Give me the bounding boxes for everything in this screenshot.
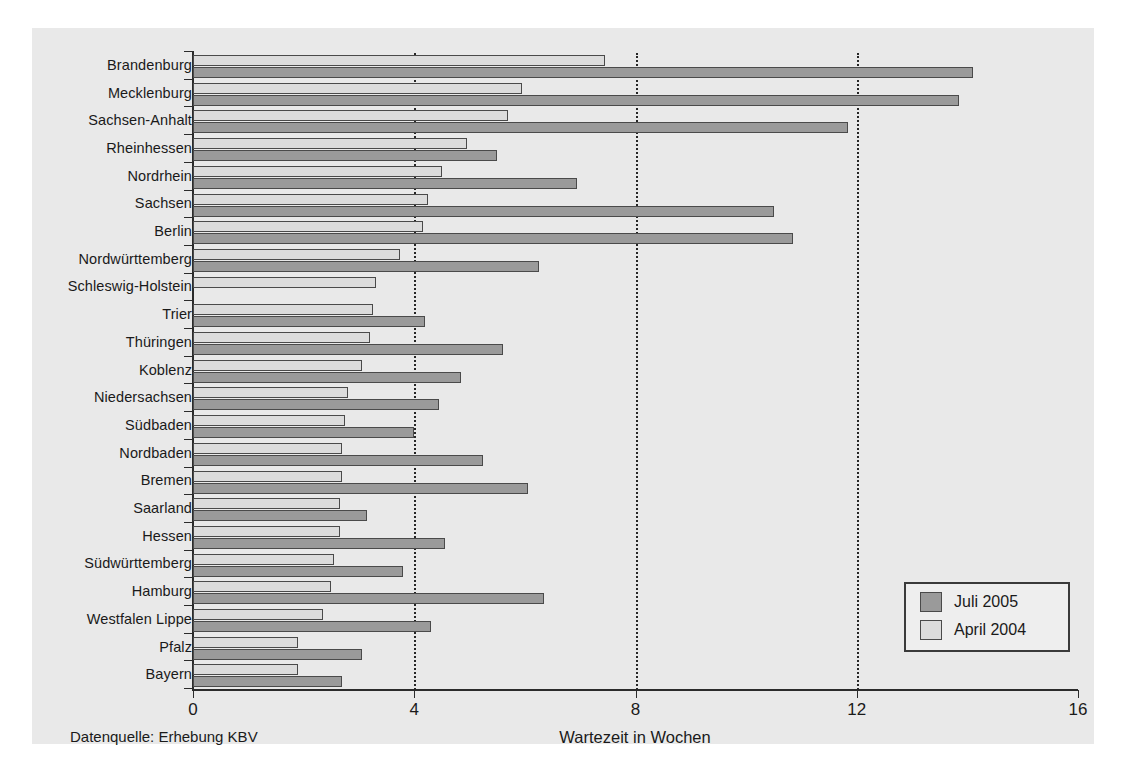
chart-legend: Juli 2005 April 2004 xyxy=(904,582,1070,652)
bar-juli-2005-nordrhein xyxy=(193,178,577,189)
y-tick-0 xyxy=(184,51,193,52)
bar-juli-2005-hessen xyxy=(193,538,445,549)
chart-page: 0481216 BrandenburgMecklenburgSachsen-An… xyxy=(0,0,1126,779)
bar-april-2004-saarland xyxy=(193,498,340,509)
bar-juli-2005-nordw-rttemberg xyxy=(193,261,539,272)
y-tick-6 xyxy=(184,217,193,218)
y-axis-label-bremen: Bremen xyxy=(141,472,192,488)
y-axis-label-nordrhein: Nordrhein xyxy=(127,168,192,184)
bar-april-2004-westfalen-lippe xyxy=(193,609,323,620)
y-axis-label-s-dbaden: Südbaden xyxy=(125,417,192,433)
gridline-8 xyxy=(636,53,638,690)
x-tick-12 xyxy=(857,690,858,698)
bar-april-2004-nordw-rttemberg xyxy=(193,249,400,260)
bar-april-2004-hamburg xyxy=(193,581,331,592)
bar-april-2004-koblenz xyxy=(193,360,362,371)
legend-swatch-april-2004 xyxy=(920,620,942,640)
x-tick-8 xyxy=(636,690,637,698)
bar-april-2004-schleswig-holstein xyxy=(193,277,376,288)
y-tick-4 xyxy=(184,162,193,163)
bar-april-2004-mecklenburg xyxy=(193,83,522,94)
bar-juli-2005-niedersachsen xyxy=(193,399,439,410)
legend-item-april-2004: April 2004 xyxy=(920,620,1026,640)
y-axis-label-westfalen-lippe: Westfalen Lippe xyxy=(87,611,192,627)
bar-juli-2005-s-dbaden xyxy=(193,427,414,438)
y-tick-16 xyxy=(184,494,193,495)
y-tick-22 xyxy=(184,660,193,661)
chart-panel: 0481216 BrandenburgMecklenburgSachsen-An… xyxy=(32,28,1094,744)
x-tick-label-12: 12 xyxy=(847,700,866,720)
y-tick-13 xyxy=(184,411,193,412)
y-tick-10 xyxy=(184,328,193,329)
x-tick-4 xyxy=(414,690,415,698)
y-tick-18 xyxy=(184,550,193,551)
bar-juli-2005-westfalen-lippe xyxy=(193,621,431,632)
bar-april-2004-th-ringen xyxy=(193,332,370,343)
bar-april-2004-rheinhessen xyxy=(193,138,467,149)
bar-juli-2005-saarland xyxy=(193,510,367,521)
y-tick-1 xyxy=(184,79,193,80)
y-tick-17 xyxy=(184,522,193,523)
bar-april-2004-berlin xyxy=(193,221,423,232)
bar-juli-2005-bremen xyxy=(193,483,528,494)
bar-juli-2005-sachsen xyxy=(193,206,774,217)
source-note: Datenquelle: Erhebung KBV xyxy=(70,728,258,745)
bar-juli-2005-th-ringen xyxy=(193,344,503,355)
y-axis-label-pfalz: Pfalz xyxy=(159,639,192,655)
y-axis-label-niedersachsen: Niedersachsen xyxy=(94,389,192,405)
bar-april-2004-trier xyxy=(193,304,373,315)
y-tick-20 xyxy=(184,605,193,606)
bar-juli-2005-sachsen-anhalt xyxy=(193,122,848,133)
y-axis-label-berlin: Berlin xyxy=(154,223,192,239)
legend-label-juli-2005: Juli 2005 xyxy=(954,593,1018,611)
bar-juli-2005-bayern xyxy=(193,676,342,687)
bar-april-2004-s-dw-rttemberg xyxy=(193,554,334,565)
y-tick-5 xyxy=(184,190,193,191)
y-axis-label-sachsen: Sachsen xyxy=(135,195,192,211)
bar-april-2004-sachsen xyxy=(193,194,428,205)
bar-april-2004-s-dbaden xyxy=(193,415,345,426)
y-tick-21 xyxy=(184,633,193,634)
y-axis-label-nordw-rttemberg: Nordwürttemberg xyxy=(78,251,192,267)
y-axis-label-brandenburg: Brandenburg xyxy=(107,57,192,73)
y-axis-label-s-dw-rttemberg: Südwürttemberg xyxy=(84,555,192,571)
y-axis-label-bayern: Bayern xyxy=(145,666,192,682)
bar-april-2004-sachsen-anhalt xyxy=(193,110,508,121)
bar-juli-2005-koblenz xyxy=(193,372,461,383)
bar-april-2004-hessen xyxy=(193,526,340,537)
bar-april-2004-nordrhein xyxy=(193,166,442,177)
bar-april-2004-pfalz xyxy=(193,637,298,648)
x-tick-0 xyxy=(193,690,194,698)
legend-swatch-juli-2005 xyxy=(920,592,942,612)
bar-juli-2005-nordbaden xyxy=(193,455,483,466)
y-axis-label-nordbaden: Nordbaden xyxy=(119,445,192,461)
y-tick-15 xyxy=(184,467,193,468)
x-tick-label-4: 4 xyxy=(410,700,419,720)
y-tick-7 xyxy=(184,245,193,246)
y-tick-19 xyxy=(184,577,193,578)
x-tick-label-8: 8 xyxy=(631,700,640,720)
y-tick-14 xyxy=(184,439,193,440)
y-tick-end xyxy=(184,688,193,689)
bar-juli-2005-brandenburg xyxy=(193,67,973,78)
y-tick-11 xyxy=(184,356,193,357)
y-tick-8 xyxy=(184,273,193,274)
bar-april-2004-bayern xyxy=(193,664,298,675)
gridline-12 xyxy=(857,53,859,690)
bar-april-2004-niedersachsen xyxy=(193,387,348,398)
bar-april-2004-nordbaden xyxy=(193,443,342,454)
bar-juli-2005-pfalz xyxy=(193,649,362,660)
y-tick-9 xyxy=(184,300,193,301)
y-axis-label-saarland: Saarland xyxy=(133,500,192,516)
x-axis-title: Wartezeit in Wochen xyxy=(192,728,1078,747)
bar-juli-2005-trier xyxy=(193,316,425,327)
bar-april-2004-bremen xyxy=(193,471,342,482)
y-axis-label-rheinhessen: Rheinhessen xyxy=(106,140,192,156)
y-axis-label-trier: Trier xyxy=(162,306,192,322)
x-tick-label-0: 0 xyxy=(188,700,197,720)
y-axis-label-mecklenburg: Mecklenburg xyxy=(108,85,192,101)
y-axis-label-koblenz: Koblenz xyxy=(139,362,192,378)
bar-juli-2005-s-dw-rttemberg xyxy=(193,566,403,577)
y-axis-label-th-ringen: Thüringen xyxy=(126,334,192,350)
bar-juli-2005-rheinhessen xyxy=(193,150,497,161)
